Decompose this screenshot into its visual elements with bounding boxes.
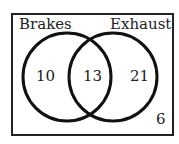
- brakes-only-value: 10: [36, 69, 55, 84]
- exhaust-only-value: 21: [130, 69, 149, 84]
- intersection-value: 13: [83, 69, 102, 84]
- exhaust-label: Exhaust: [110, 17, 171, 32]
- brakes-label: Brakes: [19, 17, 72, 32]
- outside-value: 6: [156, 112, 166, 127]
